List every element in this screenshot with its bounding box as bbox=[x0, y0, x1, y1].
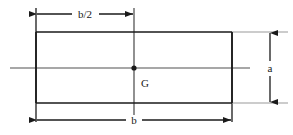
dimension-full-width: b bbox=[37, 114, 231, 126]
extension-lines-group bbox=[36, 8, 288, 122]
centerlines-group bbox=[10, 8, 250, 115]
full-width-label: b bbox=[131, 114, 137, 126]
dimension-diagram-figure: b/2 b a G bbox=[0, 0, 293, 135]
height-label: a bbox=[268, 62, 273, 74]
centroid-dot bbox=[131, 65, 136, 70]
dimension-height: a bbox=[268, 33, 273, 102]
dimension-half-width: b/2 bbox=[37, 8, 133, 20]
diagram-canvas: b/2 b a G bbox=[0, 0, 293, 135]
centroid-label: G bbox=[141, 77, 149, 89]
half-width-label: b/2 bbox=[78, 8, 92, 20]
